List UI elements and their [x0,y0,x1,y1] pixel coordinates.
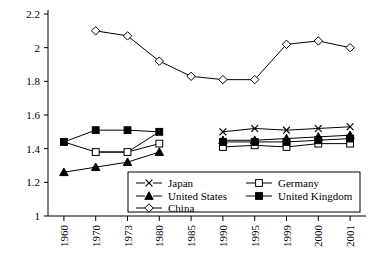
data-point-marker [314,37,322,45]
x-tick-label: 1985 [185,225,197,248]
legend-label: United Kingdom [278,190,353,202]
data-point-marker [346,43,354,51]
x-tick-label: 1980 [153,225,165,248]
data-point-marker [256,180,263,187]
data-point-marker [283,139,290,146]
data-point-marker [92,149,99,156]
data-point-marker [92,27,100,35]
series-line [64,132,159,152]
series-line [64,130,159,142]
x-tick-label: 1995 [249,225,261,248]
legend-label: China [168,202,194,214]
data-point-marker [219,75,227,83]
data-point-marker [124,149,131,156]
data-point-marker [251,139,258,146]
series-line [96,31,350,80]
y-tick-label: 1 [35,210,41,222]
data-point-marker [315,137,322,144]
data-point-marker [124,127,131,134]
series-line [64,152,159,172]
data-point-marker [347,135,354,142]
legend-label: Japan [168,177,194,189]
data-point-marker [220,139,227,146]
data-point-marker [61,139,68,146]
line-chart: 11.21.41.61.822.2 1960197019731980198519… [0,0,375,268]
legend-label: Germany [278,177,319,189]
x-tick-label: 1970 [90,225,102,248]
x-tick-label: 1960 [58,225,70,248]
x-tick-label: 2000 [312,225,324,248]
y-tick-label: 2 [35,42,41,54]
chart-canvas: 11.21.41.61.822.2 1960197019731980198519… [0,0,375,268]
y-axis: 11.21.41.61.822.2 [26,8,48,222]
data-point-marker [187,72,195,80]
x-tick-label: 1973 [122,225,134,248]
x-tick-label: 1999 [281,225,293,248]
y-tick-label: 1.6 [26,109,40,121]
data-point-marker [155,148,163,156]
series-japan [61,123,354,155]
y-tick-label: 1.8 [26,75,40,87]
series-china [92,27,355,84]
data-point-marker [92,127,99,134]
legend-label: United States [168,190,227,202]
data-point-marker [156,140,163,147]
data-point-marker [256,193,263,200]
series-united-states [60,131,355,176]
y-tick-label: 1.2 [26,176,40,188]
data-point-marker [156,128,163,135]
chart-legend: JapanGermanyUnited StatesUnited KingdomC… [128,172,360,214]
x-tick-label: 1990 [217,225,229,248]
series-united-kingdom [61,127,354,146]
y-tick-label: 2.2 [26,8,40,20]
x-axis: 1960197019731980198519901995199920002001 [48,216,366,247]
y-tick-label: 1.4 [26,143,40,155]
series-layer [60,27,355,176]
x-tick-label: 2001 [344,225,356,247]
